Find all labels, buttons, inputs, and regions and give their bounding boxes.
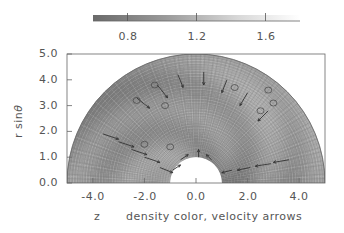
plot-caption: density color, velocity arrows (126, 210, 302, 223)
x-tick-label: 0.0 (176, 190, 216, 203)
y-tick-label: 2.0 (28, 124, 58, 137)
x-tick-label: 2.0 (228, 190, 268, 203)
y-tick-label: 1.0 (28, 150, 58, 163)
x-tick-label: 4.0 (279, 190, 319, 203)
y-axis-label-text: r sin (12, 112, 25, 138)
colorbar (93, 13, 300, 21)
plot-area (67, 54, 325, 183)
colorbar-tick-label: 0.8 (108, 30, 148, 43)
x-axis-label: z (94, 210, 100, 223)
y-axis-label: r sinθ (12, 104, 25, 138)
x-tick-label: -2.0 (125, 190, 165, 203)
y-tick-label: 0.0 (28, 176, 58, 189)
y-tick-label: 3.0 (28, 99, 58, 112)
y-tick-label: 4.0 (28, 73, 58, 86)
x-tick-label: -4.0 (73, 190, 113, 203)
y-tick-label: 5.0 (28, 47, 58, 60)
colorbar-tick-label: 1.2 (177, 30, 217, 43)
colorbar-tick-label: 1.6 (246, 30, 286, 43)
y-axis-label-theta: θ (12, 104, 25, 111)
